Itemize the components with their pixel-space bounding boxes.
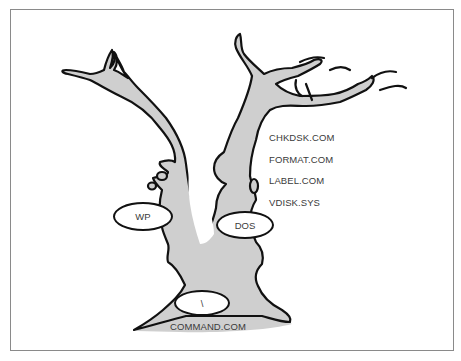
file-label: LABEL.COM xyxy=(269,175,324,186)
file-command: COMMAND.COM xyxy=(170,321,246,332)
file-chkdsk: CHKDSK.COM xyxy=(269,132,334,143)
wp-directory-node: WP xyxy=(113,202,173,231)
wp-label: WP xyxy=(135,211,150,222)
dos-label: DOS xyxy=(235,220,256,231)
dos-directory-node: DOS xyxy=(216,211,274,239)
file-format: FORMAT.COM xyxy=(269,154,333,165)
file-vdisk: VDISK.SYS xyxy=(269,197,320,208)
tree-illustration xyxy=(0,0,461,361)
root-directory-node: \ xyxy=(174,290,230,316)
root-label: \ xyxy=(201,298,204,309)
